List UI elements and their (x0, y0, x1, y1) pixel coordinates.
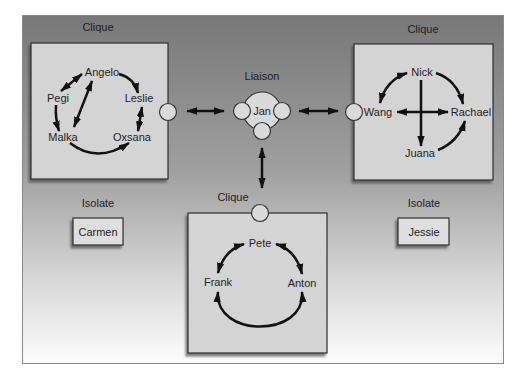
communication-network-diagram: Clique Angelo Pegi Leslie Malka Oxsana C… (0, 0, 527, 379)
clique-left-box (31, 43, 168, 179)
node-oxsana: Oxsana (113, 131, 152, 143)
node-jessie: Jessie (408, 226, 439, 238)
liaison-connector-bottom (254, 123, 271, 140)
clique-left-connector (160, 104, 177, 121)
node-angelo: Angelo (85, 66, 119, 78)
node-nick: Nick (411, 66, 433, 78)
clique-bottom-label: Clique (217, 191, 248, 203)
node-carmen: Carmen (78, 226, 117, 238)
node-pegi: Pegi (47, 92, 69, 104)
clique-right: Clique Nick Wang Rachael Juana (346, 23, 494, 180)
node-leslie: Leslie (125, 92, 154, 104)
clique-bottom-connector (252, 205, 269, 222)
node-anton: Anton (288, 277, 317, 289)
liaison-connector-right (274, 103, 291, 120)
liaison-label: Liaison (245, 70, 280, 82)
clique-bottom: Clique Pete Frank Anton (188, 191, 327, 353)
isolate-right-label: Isolate (408, 197, 440, 209)
clique-left-label: Clique (82, 21, 113, 33)
node-jan: Jan (253, 105, 271, 117)
node-wang: Wang (364, 106, 392, 118)
liaison-connector-left (234, 103, 251, 120)
node-rachael: Rachael (451, 106, 491, 118)
node-frank: Frank (204, 276, 233, 288)
isolate-left-label: Isolate (82, 197, 114, 209)
node-juana: Juana (405, 147, 436, 159)
clique-right-label: Clique (407, 23, 438, 35)
node-pete: Pete (249, 237, 272, 249)
clique-right-connector (346, 104, 363, 121)
clique-left: Clique Angelo Pegi Leslie Malka Oxsana (31, 21, 177, 179)
node-malka: Malka (48, 131, 78, 143)
